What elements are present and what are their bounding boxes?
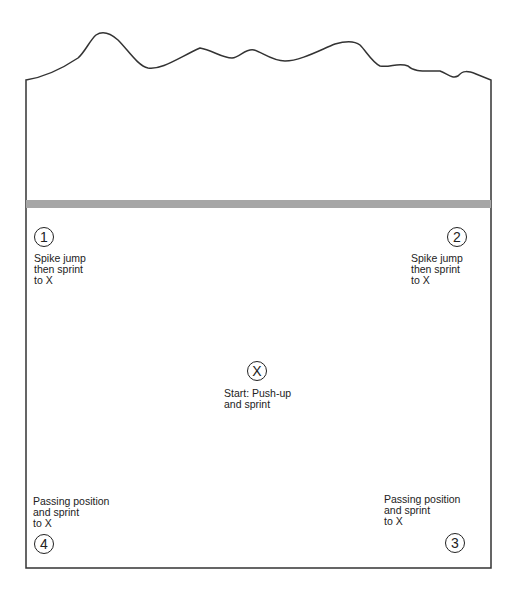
station-marker-2: 2 <box>447 227 467 247</box>
station-label-1: Spike jump then sprint to X <box>34 253 86 286</box>
station-marker-3: 3 <box>445 533 465 553</box>
net <box>26 200 491 208</box>
station-2: 2 Spike jump then sprint to X <box>411 227 467 286</box>
station-start: X Start: Push-up and sprint <box>224 361 291 410</box>
station-label-4: Passing position and sprint to X <box>33 496 109 529</box>
station-4: Passing position and sprint to X 4 <box>33 496 109 554</box>
torn-edge-outline <box>26 33 491 568</box>
station-label-2: Spike jump then sprint to X <box>411 253 467 286</box>
station-marker-1: 1 <box>34 227 54 247</box>
station-label-start: Start: Push-up and sprint <box>224 388 291 410</box>
station-label-3: Passing position and sprint to X <box>384 494 465 527</box>
station-marker-x: X <box>247 361 267 381</box>
station-1: 1 Spike jump then sprint to X <box>34 227 86 286</box>
station-marker-4: 4 <box>34 534 54 554</box>
station-3: Passing position and sprint to X 3 <box>384 494 465 553</box>
